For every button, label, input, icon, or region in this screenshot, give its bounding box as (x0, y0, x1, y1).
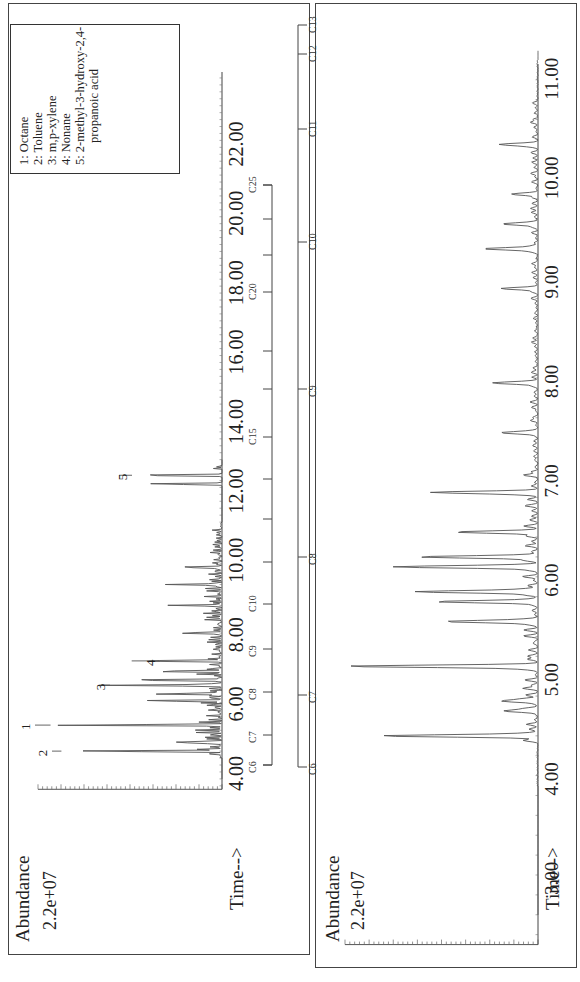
x-tick-label: 11.00 (541, 58, 563, 100)
carbon-number-label: C9 (307, 385, 318, 397)
carbon-number-label: C10 (307, 233, 318, 250)
x-tick-label: 5.00 (541, 663, 563, 696)
x-tick-label: 4.00 (541, 762, 563, 795)
x-tick-label: 9.00 (541, 265, 563, 298)
carbon-number-label: C12 (307, 45, 318, 62)
figure: Abundance 2.2e+07 Time--> 4.006.008.0010… (0, 0, 580, 982)
carbon-number-label: C8 (307, 553, 318, 565)
chromatogram-expanded-plot (0, 0, 580, 982)
x-tick-label: 6.00 (541, 564, 563, 597)
x-tick-label: 8.00 (541, 365, 563, 398)
x-tick-label: 3.00 (541, 862, 563, 895)
x-tick-label: 7.00 (541, 464, 563, 497)
x-tick-label: 10.00 (541, 156, 563, 199)
carbon-number-label: C13 (307, 16, 318, 33)
carbon-number-label: C7 (307, 691, 318, 703)
carbon-number-label: C6 (307, 763, 318, 775)
carbon-number-label: C11 (307, 121, 318, 137)
